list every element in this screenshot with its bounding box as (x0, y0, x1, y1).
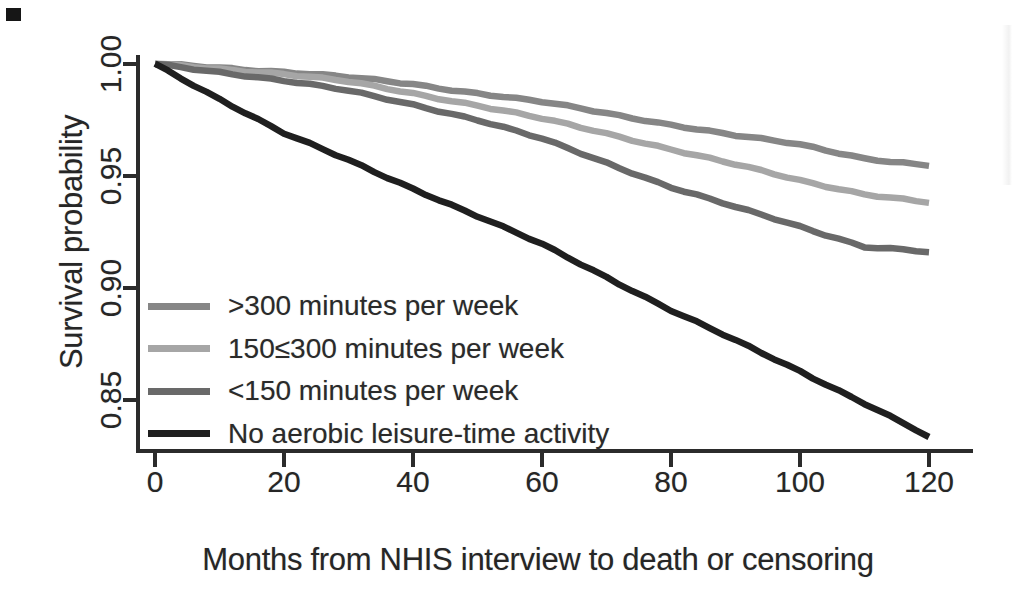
y-tick-label: 0.90 (96, 259, 126, 317)
x-tick-label: 100 (775, 467, 825, 497)
survival-curve (155, 64, 929, 252)
legend-swatch (148, 345, 210, 352)
y-tick-label: 0.95 (96, 147, 126, 205)
legend-swatch (148, 388, 210, 395)
x-tick-label: 0 (147, 467, 164, 497)
legend-label: >300 minutes per week (228, 292, 518, 320)
legend-swatch (148, 430, 210, 437)
legend-row: <150 minutes per week (148, 370, 609, 413)
legend-swatch (148, 303, 210, 310)
legend-label: 150≤300 minutes per week (228, 335, 564, 363)
x-axis-title: Months from NHIS interview to death or c… (202, 544, 873, 575)
y-axis-title: Survival probability (56, 115, 87, 369)
x-tick-label: 80 (654, 467, 687, 497)
y-tick-label: 1.00 (96, 35, 126, 93)
legend-row: 150≤300 minutes per week (148, 328, 609, 371)
survival-figure: Survival probability 1.000.950.900.85020… (0, 0, 1017, 606)
survival-curve (155, 64, 929, 203)
y-tick-label: 0.85 (96, 371, 126, 429)
legend-row: >300 minutes per week (148, 285, 609, 328)
legend-row: No aerobic leisure-time activity (148, 413, 609, 456)
legend-label: No aerobic leisure-time activity (228, 420, 609, 448)
legend-label: <150 minutes per week (228, 377, 518, 405)
x-tick-label: 40 (396, 467, 429, 497)
x-tick-label: 120 (904, 467, 954, 497)
x-tick-label: 60 (525, 467, 558, 497)
x-tick-label: 20 (267, 467, 300, 497)
legend: >300 minutes per week150≤300 minutes per… (148, 285, 609, 455)
